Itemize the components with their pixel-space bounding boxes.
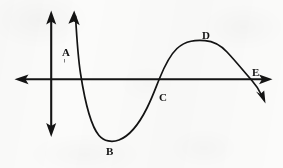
curve-start-up-arrowhead (68, 11, 79, 26)
wave-curve (68, 11, 265, 142)
point-label-a: A (62, 47, 70, 58)
point-label-c: C (159, 92, 167, 103)
point-label-d: D (202, 30, 210, 41)
point-label-e: E (252, 67, 259, 78)
horizontal-axis (15, 74, 273, 84)
vertical-axis (46, 11, 56, 138)
curve-figure: A B C D E (0, 0, 283, 168)
curve-diagram-canvas (0, 0, 283, 168)
point-label-b: B (106, 146, 113, 157)
